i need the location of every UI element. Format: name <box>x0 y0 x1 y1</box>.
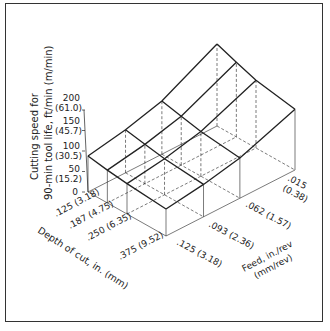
z-tick-200-metric: (61.0) <box>55 103 82 113</box>
base-grid-line <box>107 137 236 203</box>
z-tick-100: 100 <box>63 141 80 151</box>
feed-tick-093: .093 (2.36) <box>207 219 256 251</box>
feed-tick-062: .062 (1.57) <box>244 199 293 231</box>
base-grid-line <box>127 148 256 214</box>
z-tick-50: 50 <box>69 164 81 174</box>
axis-labels: Cutting speed for 90-min tool life, ft/m… <box>29 45 310 291</box>
depth-axis-title: Depth of cut, in. (mm) <box>36 224 131 291</box>
z-axis-title-line1: Cutting speed for <box>29 92 40 180</box>
surface-line-depth <box>127 80 256 183</box>
feed-tick-125: .125 (3.18) <box>175 237 224 269</box>
surface-line-feed <box>217 44 295 109</box>
z-tick-50-metric: (15.2) <box>55 174 82 184</box>
z-tick-100-metric: (30.5) <box>55 151 82 161</box>
base-grid-line <box>166 170 295 236</box>
depth-tick-375: .375 (9.52) <box>116 229 165 261</box>
z-tick-200: 200 <box>63 93 80 103</box>
z-tick-150: 150 <box>63 116 80 126</box>
surface-chart: Cutting speed for 90-min tool life, ft/m… <box>0 0 330 331</box>
z-axis-title-line2: 90-min tool life, ft/min (m/min) <box>43 45 54 200</box>
z-tick-150-metric: (45.7) <box>55 126 82 136</box>
